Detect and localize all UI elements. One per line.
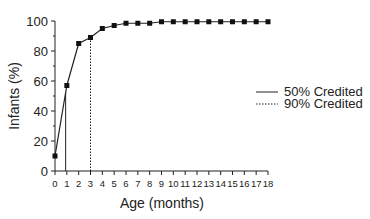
data-point-marker — [135, 21, 140, 26]
x-tick-label: 9 — [159, 178, 164, 189]
x-tick-label: 4 — [100, 178, 105, 189]
x-tick-label: 16 — [239, 178, 250, 189]
y-tick-label: 60 — [34, 74, 48, 89]
data-point-marker — [218, 19, 223, 24]
x-tick-label: 14 — [215, 178, 226, 189]
y-axis-label: Infants (%) — [6, 62, 22, 130]
data-point-marker — [53, 154, 58, 159]
legend: 50% Credited 90% Credited — [256, 84, 363, 111]
x-tick-label: 10 — [168, 178, 179, 189]
reference-lines — [66, 38, 91, 172]
y-tick-label: 20 — [34, 134, 48, 149]
data-point-marker — [76, 41, 81, 46]
x-tick-label: 7 — [135, 178, 140, 189]
data-point-marker — [230, 19, 235, 24]
x-tick-label: 0 — [52, 178, 57, 189]
x-tick-label: 12 — [192, 178, 203, 189]
x-tick-label: 11 — [180, 178, 190, 189]
legend-item-90: 90% Credited — [284, 96, 363, 111]
data-point-marker — [195, 19, 200, 24]
data-point-marker — [100, 26, 105, 31]
x-tick-label: 8 — [147, 178, 152, 189]
data-series — [53, 19, 271, 158]
x-tick-label: 3 — [88, 178, 93, 189]
data-point-marker — [64, 83, 69, 88]
y-tick-label: 40 — [34, 104, 48, 119]
y-tick-label: 80 — [34, 44, 48, 59]
data-point-marker — [88, 35, 93, 40]
x-tick-label: 1 — [64, 178, 69, 189]
data-point-marker — [159, 19, 164, 24]
data-point-marker — [171, 19, 176, 24]
data-point-marker — [242, 19, 247, 24]
x-tick-label: 18 — [263, 178, 274, 189]
line-chart: 0204060801000123456789101112131415161718… — [0, 0, 370, 219]
data-point-marker — [183, 19, 188, 24]
x-tick-label: 6 — [123, 178, 128, 189]
x-tick-label: 2 — [76, 178, 81, 189]
y-tick-label: 0 — [41, 164, 48, 179]
x-tick-label: 17 — [251, 178, 262, 189]
data-point-marker — [124, 21, 129, 26]
x-axis-label: Age (months) — [120, 195, 204, 211]
data-point-marker — [206, 19, 211, 24]
axes: 0204060801000123456789101112131415161718 — [26, 14, 273, 189]
x-tick-label: 5 — [112, 178, 117, 189]
x-tick-label: 15 — [227, 178, 238, 189]
y-tick-label: 100 — [26, 14, 48, 29]
data-point-marker — [254, 19, 259, 24]
data-point-marker — [266, 19, 271, 24]
data-point-marker — [147, 21, 152, 26]
data-point-marker — [112, 23, 117, 28]
x-tick-label: 13 — [204, 178, 215, 189]
